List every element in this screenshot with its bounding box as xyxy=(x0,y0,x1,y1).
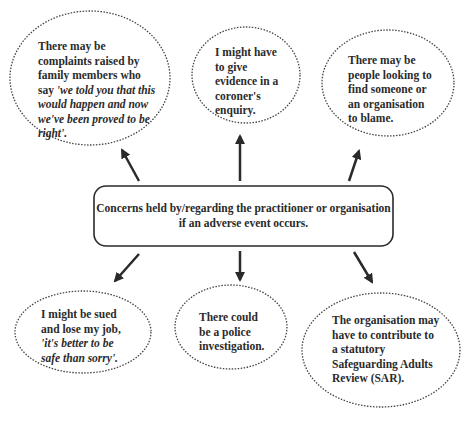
node-coroner-evidence: I might have to give evidence in a coron… xyxy=(215,45,289,118)
node-family-complaints: There may be complaints raised by family… xyxy=(38,39,158,141)
node-police: There could be a police investigation. xyxy=(199,310,269,354)
arrow-to-sar xyxy=(354,252,372,282)
node-sued: I might be sued and lose my job, 'it's b… xyxy=(41,307,131,365)
arrow-to-blame xyxy=(349,151,359,181)
central-node-label: Concerns held by/regarding the practitio… xyxy=(94,186,393,246)
central-line-1: Concerns held by/regarding the practitio… xyxy=(96,202,391,214)
central-line-2: if an adverse event occurs. xyxy=(179,217,308,229)
node-blame: There may be people looking to find some… xyxy=(348,53,434,126)
node-sar: The organisation may have to contribute … xyxy=(332,313,440,386)
arrow-to-family-complaints xyxy=(122,150,139,181)
arrow-to-sued xyxy=(115,254,139,281)
